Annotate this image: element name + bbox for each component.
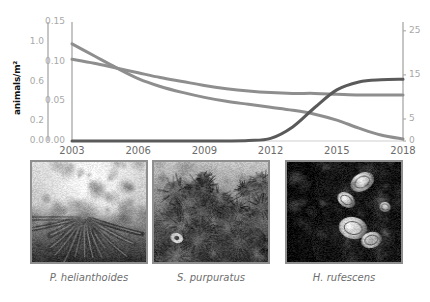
population-trend-chart: animals/m² 1.0 0.6 0.2 0.0 0.15 0.10 0.0… xyxy=(0,0,430,158)
caption-h-rufescens: H. rufescens xyxy=(285,272,403,284)
photo-p-helianthoides xyxy=(30,160,148,264)
species-caption-row: P. helianthoides S. purpuratus H. rufesc… xyxy=(0,272,430,290)
chart-plot-svg xyxy=(0,0,430,158)
caption-p-helianthoides: P. helianthoides xyxy=(30,272,148,284)
caption-s-purpuratus: S. purpuratus xyxy=(152,272,270,284)
photo-h-rufescens-image xyxy=(287,162,401,262)
photo-s-purpuratus-image xyxy=(154,162,268,262)
photo-p-helianthoides-image xyxy=(32,162,146,262)
species-photo-row xyxy=(0,160,430,265)
photo-s-purpuratus xyxy=(152,160,270,264)
photo-h-rufescens xyxy=(285,160,403,264)
series-line-p-helianthoides xyxy=(72,59,403,95)
figure-root: animals/m² 1.0 0.6 0.2 0.0 0.15 0.10 0.0… xyxy=(0,0,430,302)
